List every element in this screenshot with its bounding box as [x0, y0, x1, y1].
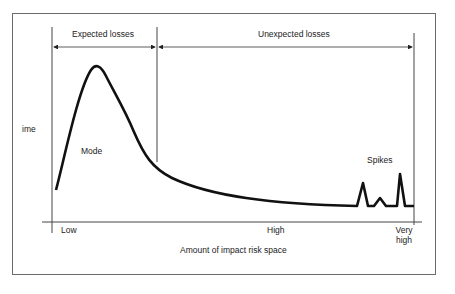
- unexpected-losses-label: Unexpected losses: [258, 29, 330, 39]
- x-axis-label: Amount of impact risk space: [180, 245, 287, 255]
- loss-curve: [56, 66, 414, 206]
- x-tick-low: Low: [61, 225, 77, 235]
- x-tick-very-high: Very high: [395, 225, 412, 245]
- spikes-annotation: Spikes: [367, 155, 393, 165]
- y-axis-label: ime: [22, 124, 36, 134]
- expected-losses-label: Expected losses: [72, 29, 134, 39]
- mode-annotation: Mode: [81, 146, 102, 156]
- x-tick-high: High: [267, 225, 284, 235]
